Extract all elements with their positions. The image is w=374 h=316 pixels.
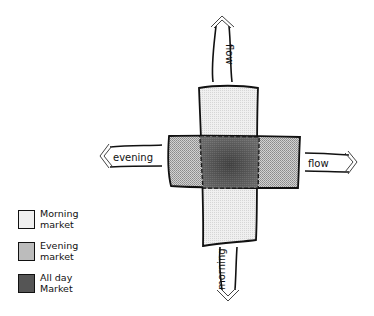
morning-swatch	[18, 210, 35, 229]
evening-swatch	[18, 242, 35, 261]
flow-right-label: flow	[308, 158, 329, 169]
morning-down-arrow: morning	[216, 247, 239, 301]
legend-line2: market	[40, 219, 78, 230]
legend-line2: market	[40, 251, 78, 262]
legend-line1: Evening	[40, 240, 78, 251]
legend-line1: Morning	[40, 208, 78, 219]
legend-line2: Market	[40, 283, 73, 294]
morning-label: morning	[216, 248, 227, 290]
legend-label-evening: Evening market	[40, 240, 78, 262]
legend-line1: All day	[40, 272, 73, 283]
legend-item-all-day: All day Market	[14, 272, 104, 306]
legend-label-all-day: All day Market	[40, 272, 73, 294]
evening-label: evening	[113, 152, 153, 163]
all-day-swatch	[18, 274, 35, 293]
flow-up-arrow: flow	[211, 16, 235, 82]
legend-item-morning: Morning market	[14, 208, 104, 242]
flow-up-label: flow	[224, 44, 235, 65]
legend-label-morning: Morning market	[40, 208, 78, 230]
evening-left-arrow: evening	[100, 144, 162, 168]
legend-item-evening: Evening market	[14, 240, 104, 274]
flow-right-arrow: flow	[305, 151, 357, 174]
